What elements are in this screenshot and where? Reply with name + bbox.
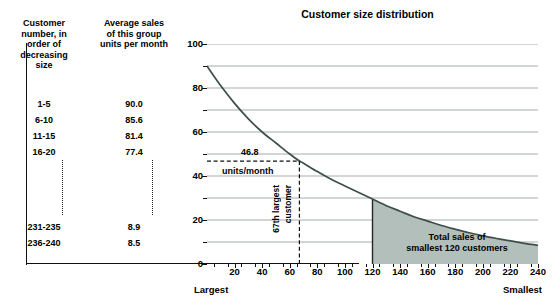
x-axis-minor-tick bbox=[297, 264, 298, 267]
y-axis-tick-label: 20 bbox=[177, 214, 203, 225]
x-axis-label-largest: Largest bbox=[194, 284, 228, 295]
table-rows-bottom: 231-235 8.9 236-240 8.5 bbox=[0, 219, 180, 251]
cell-customer-range: 11-15 bbox=[0, 131, 88, 141]
threshold-units-label: units/month bbox=[222, 166, 274, 176]
table-row: 231-235 8.9 bbox=[0, 219, 180, 235]
x-axis-tick-mark bbox=[345, 264, 346, 268]
x-axis-tick-mark bbox=[235, 264, 236, 268]
y-axis-tick-mark bbox=[202, 220, 207, 221]
x-axis-minor-tick bbox=[366, 264, 367, 267]
table-rows-top: 1-5 90.0 6-10 85.6 11-15 81.4 16-20 77.4 bbox=[0, 96, 180, 160]
x-axis-minor-tick bbox=[531, 264, 532, 267]
x-axis-tick-mark bbox=[483, 264, 484, 268]
x-axis-minor-tick bbox=[517, 264, 518, 267]
chart-panel: Customer size distribution bbox=[180, 0, 555, 305]
customer-sales-table: Customer number, in order of decreasing … bbox=[0, 0, 180, 305]
header-line: number, in bbox=[0, 29, 88, 40]
x-axis-minor-tick bbox=[435, 264, 436, 267]
x-axis-tick-mark bbox=[290, 264, 291, 268]
table-header-average-sales: Average sales of this group units per mo… bbox=[88, 18, 180, 71]
table-header-row: Customer number, in order of decreasing … bbox=[0, 18, 180, 71]
x-axis-minor-tick bbox=[407, 264, 408, 267]
y-axis-tick-mark bbox=[202, 176, 207, 177]
y-axis-tick-label: 100 bbox=[177, 38, 203, 49]
y-axis-tick-mark bbox=[202, 264, 207, 265]
y-axis-tick-label: 40 bbox=[177, 170, 203, 181]
cell-customer-range: 231-235 bbox=[0, 222, 88, 232]
x-axis-minor-tick bbox=[310, 264, 311, 267]
cell-customer-range: 1-5 bbox=[0, 99, 88, 109]
header-line: size bbox=[0, 60, 88, 71]
x-axis-minor-tick bbox=[352, 264, 353, 267]
x-axis-minor-tick bbox=[255, 264, 256, 267]
y-axis-line bbox=[26, 43, 27, 265]
x-axis-tick-mark bbox=[538, 264, 539, 268]
table-header-customer-number: Customer number, in order of decreasing … bbox=[0, 18, 88, 71]
y-axis-minor-tick bbox=[203, 154, 207, 155]
y-axis-minor-tick bbox=[203, 66, 207, 67]
x-axis-minor-tick bbox=[462, 264, 463, 267]
x-axis-tick-mark bbox=[262, 264, 263, 268]
header-line: order of bbox=[0, 39, 88, 50]
x-axis-minor-tick bbox=[448, 264, 449, 267]
x-axis-minor-tick bbox=[269, 264, 270, 267]
x-axis-minor-tick bbox=[379, 264, 380, 267]
cell-customer-range: 236-240 bbox=[0, 238, 88, 248]
y-axis-minor-tick bbox=[203, 242, 207, 243]
x-axis-minor-tick bbox=[338, 264, 339, 267]
table-row: 11-15 81.4 bbox=[0, 128, 180, 144]
x-axis-tick-mark bbox=[428, 264, 429, 268]
y-axis-tick-label: 0 bbox=[177, 258, 203, 269]
x-axis-minor-tick bbox=[214, 264, 215, 267]
header-line: Average sales bbox=[88, 18, 180, 29]
customer-marker-label-line2: customer bbox=[283, 185, 293, 223]
area-label-line: smallest 120 customers bbox=[392, 243, 522, 254]
x-axis-tick-mark bbox=[317, 264, 318, 268]
x-axis-tick-mark bbox=[400, 264, 401, 268]
y-axis-minor-tick bbox=[203, 110, 207, 111]
cell-average-sales: 8.5 bbox=[88, 238, 180, 248]
table-ellipsis-column-1 bbox=[62, 160, 63, 215]
x-axis-minor-tick bbox=[421, 264, 422, 267]
y-axis-minor-tick bbox=[203, 198, 207, 199]
chart-title: Customer size distribution bbox=[180, 8, 555, 20]
cell-average-sales: 85.6 bbox=[88, 115, 180, 125]
cell-average-sales: 81.4 bbox=[88, 131, 180, 141]
x-axis-minor-tick bbox=[504, 264, 505, 267]
x-axis-minor-tick bbox=[241, 264, 242, 267]
x-axis-minor-tick bbox=[324, 264, 325, 267]
threshold-value-label: 46.8 bbox=[241, 147, 259, 157]
x-axis-minor-tick bbox=[283, 264, 284, 267]
customer-marker-label-line1: 67th largest bbox=[271, 185, 281, 233]
y-axis-tick-mark bbox=[202, 132, 207, 133]
area-label-line: Total sales of bbox=[392, 232, 522, 243]
x-axis-tick-mark bbox=[373, 264, 374, 268]
header-line: of this group bbox=[88, 29, 180, 40]
x-axis-tick-mark bbox=[510, 264, 511, 268]
x-axis-minor-tick bbox=[490, 264, 491, 267]
header-line: units per month bbox=[88, 39, 180, 50]
header-line: decreasing bbox=[0, 50, 88, 61]
header-line: Customer bbox=[0, 18, 88, 29]
y-axis-tick-mark bbox=[202, 44, 207, 45]
x-axis-label-smallest: Smallest bbox=[503, 284, 542, 295]
y-axis-tick-label: 60 bbox=[177, 126, 203, 137]
x-axis-tick-mark bbox=[455, 264, 456, 268]
x-axis-minor-tick bbox=[476, 264, 477, 267]
cell-customer-range: 6-10 bbox=[0, 115, 88, 125]
shaded-area-label: Total sales of smallest 120 customers bbox=[392, 232, 522, 254]
y-axis-tick-label: 80 bbox=[177, 82, 203, 93]
y-axis-tick-mark bbox=[202, 88, 207, 89]
x-axis-minor-tick bbox=[393, 264, 394, 267]
cell-average-sales: 90.0 bbox=[88, 99, 180, 109]
table-row: 6-10 85.6 bbox=[0, 112, 180, 128]
cell-average-sales: 8.9 bbox=[88, 222, 180, 232]
chart-figure: Customer number, in order of decreasing … bbox=[0, 0, 555, 305]
cell-average-sales: 77.4 bbox=[88, 147, 180, 157]
x-axis-minor-tick bbox=[228, 264, 229, 267]
table-row: 1-5 90.0 bbox=[0, 96, 180, 112]
table-row: 16-20 77.4 bbox=[0, 144, 180, 160]
cell-customer-range: 16-20 bbox=[0, 147, 88, 157]
table-ellipsis-column-2 bbox=[152, 160, 153, 215]
table-row: 236-240 8.5 bbox=[0, 235, 180, 251]
